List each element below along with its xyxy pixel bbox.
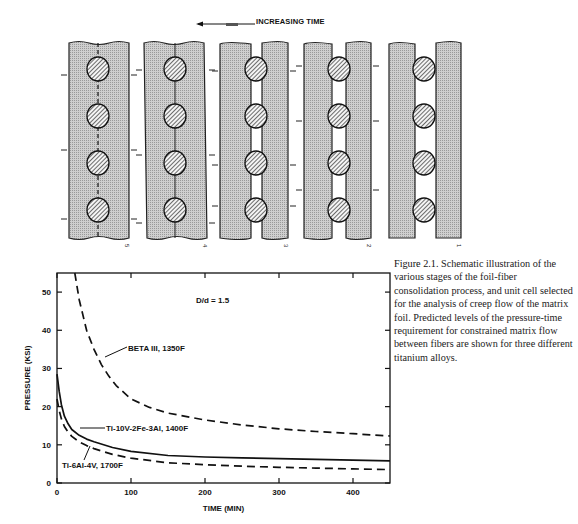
figure-label: Figure 2.1. — [394, 258, 438, 269]
stage-number: 1 — [456, 244, 462, 248]
chart-labels: D/d = 1.5BETA III, 1350FTi-10V-2Fe-3Al, … — [62, 296, 230, 470]
pressure-time-chart: 010020030040001020304050TIME (MIN)PRESSU… — [0, 250, 400, 524]
fiber-icon — [413, 57, 435, 81]
fiber-icon — [328, 151, 350, 175]
fiber-icon — [328, 57, 350, 81]
stage-panel-2: 2 — [296, 42, 379, 249]
x-tick-label: 400 — [346, 488, 360, 497]
fiber-icon — [328, 104, 350, 128]
y-tick-label: 20 — [42, 403, 51, 412]
fiber-icon — [87, 104, 109, 128]
x-tick-label: 100 — [124, 488, 138, 497]
fiber-icon — [87, 151, 109, 175]
chart-axes: 010020030040001020304050TIME (MIN)PRESSU… — [23, 273, 390, 513]
fiber-icon — [328, 198, 350, 222]
series-line-0 — [75, 273, 390, 436]
fiber-icon — [164, 151, 186, 175]
fiber-icon — [413, 198, 435, 222]
fiber-icon — [245, 57, 267, 81]
series-label: BETA III, 1350F — [128, 344, 185, 353]
stage-number: 3 — [283, 244, 289, 248]
y-tick-label: 0 — [47, 479, 52, 488]
series-label: Ti-6Al-4V, 1700F — [62, 461, 123, 470]
ratio-annotation: D/d = 1.5 — [196, 296, 230, 305]
y-axis-label: PRESSURE (KSI) — [23, 345, 32, 410]
stage-panel-1: 1 — [389, 42, 462, 249]
fiber-icon — [87, 198, 109, 222]
series-label: Ti-10V-2Fe-3Al, 1400F — [106, 424, 188, 433]
fiber-icon — [164, 57, 186, 81]
fiber-icon — [245, 151, 267, 175]
stage-number: 2 — [366, 244, 372, 248]
y-tick-label: 10 — [42, 441, 51, 450]
time-arrow-icon — [196, 22, 255, 27]
fiber-icon — [164, 104, 186, 128]
series-line-1 — [57, 374, 390, 461]
stage-number: 5 — [124, 244, 130, 248]
y-tick-label: 30 — [42, 364, 51, 373]
x-axis-label: TIME (MIN) — [203, 504, 245, 513]
fiber-icon — [87, 57, 109, 81]
figure-caption: Figure 2.1. Schematic illustration of th… — [394, 257, 574, 364]
y-tick-label: 40 — [42, 326, 51, 335]
y-tick-label: 50 — [42, 288, 51, 297]
stage-panel-3: 3 — [212, 42, 296, 249]
fiber-icon — [245, 198, 267, 222]
fiber-icon — [245, 104, 267, 128]
fiber-icon — [164, 198, 186, 222]
fiber-icon — [413, 104, 435, 128]
consolidation-stages-diagram: 54321 — [0, 0, 578, 250]
x-tick-label: 300 — [272, 488, 286, 497]
fiber-icon — [413, 151, 435, 175]
x-tick-label: 0 — [55, 488, 60, 497]
caption-text: Schematic illustration of the various st… — [394, 258, 573, 363]
stage-panel-4: 4 — [136, 42, 215, 249]
stage-panel-5: 5 — [61, 42, 137, 249]
x-tick-label: 200 — [198, 488, 212, 497]
stage-number: 4 — [202, 244, 208, 248]
